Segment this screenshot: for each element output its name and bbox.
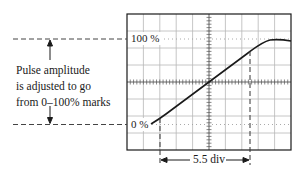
label-span-div: 5.5 div [192, 153, 226, 166]
label-0-percent: 0 % [131, 118, 149, 131]
annotation-line-1: Pulse amplitude [16, 62, 111, 78]
annotation-line-3: from 0–100% marks [16, 94, 111, 110]
annotation-line-2: is adjusted to go [16, 78, 111, 94]
amplitude-annotation: Pulse amplitude is adjusted to go from 0… [16, 62, 111, 110]
label-100-percent: 100 % [131, 32, 161, 45]
